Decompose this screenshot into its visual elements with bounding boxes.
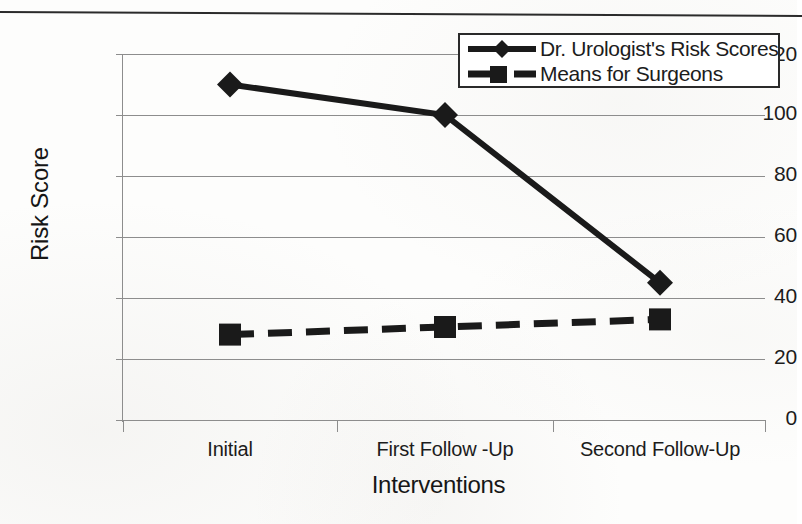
series-markers-urologist — [217, 72, 673, 296]
legend-entry-urologist[interactable]: Dr. Urologist's Risk Scores — [466, 36, 778, 62]
diamond-marker-icon — [466, 38, 538, 60]
chart-legend[interactable]: Dr. Urologist's Risk Scores Means for Su… — [458, 33, 780, 88]
legend-label-means: Means for Surgeons — [540, 62, 723, 86]
legend-label-urologist: Dr. Urologist's Risk Scores — [540, 37, 778, 61]
legend-entry-means[interactable]: Means for Surgeons — [466, 61, 723, 87]
series-markers-means — [219, 308, 671, 345]
square-marker-icon — [466, 63, 538, 85]
